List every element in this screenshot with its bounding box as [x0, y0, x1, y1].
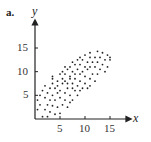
data-point: [107, 66, 109, 68]
data-point: [77, 85, 79, 87]
data-points: [37, 50, 111, 117]
data-point: [59, 97, 61, 99]
data-point: [57, 80, 59, 82]
data-point: [84, 54, 86, 56]
data-point: [74, 73, 76, 75]
data-point: [69, 94, 71, 96]
data-point: [79, 64, 81, 66]
data-point: [82, 71, 84, 73]
data-point: [57, 106, 59, 108]
data-point: [64, 80, 66, 82]
data-point: [89, 66, 91, 68]
data-point: [102, 64, 104, 66]
data-point: [89, 57, 91, 59]
data-point: [89, 52, 91, 54]
data-point: [54, 113, 56, 115]
y-tick-label: 15: [17, 41, 28, 53]
data-point: [67, 68, 69, 70]
data-point: [74, 90, 76, 92]
data-point: [49, 99, 51, 101]
data-point: [62, 78, 64, 80]
data-point: [97, 61, 99, 63]
data-point: [47, 92, 49, 94]
data-point: [97, 73, 99, 75]
data-point: [87, 87, 89, 89]
data-point: [47, 116, 49, 118]
data-point: [74, 78, 76, 80]
data-point: [42, 116, 44, 118]
data-point: [62, 83, 64, 85]
data-point: [69, 66, 71, 68]
data-point: [104, 59, 106, 61]
data-point: [64, 99, 66, 101]
data-point: [44, 97, 46, 99]
data-point: [52, 78, 54, 80]
data-point: [79, 90, 81, 92]
data-point: [72, 99, 74, 101]
data-point: [109, 57, 111, 59]
data-point: [97, 50, 99, 52]
data-point: [64, 66, 66, 68]
data-point: [52, 94, 54, 96]
data-point: [67, 87, 69, 89]
data-point: [37, 99, 39, 101]
data-point: [84, 83, 86, 85]
data-point: [39, 94, 41, 96]
y-axis-label: y: [32, 4, 37, 19]
data-point: [69, 76, 71, 78]
data-point: [89, 85, 91, 87]
data-point: [87, 68, 89, 70]
data-point: [52, 76, 54, 78]
data-point: [57, 85, 59, 87]
data-point: [92, 73, 94, 75]
data-point: [82, 87, 84, 89]
data-point: [77, 59, 79, 61]
data-point: [77, 94, 79, 96]
data-point: [57, 92, 59, 94]
data-point: [69, 78, 71, 80]
data-point: [59, 112, 61, 114]
data-point: [54, 99, 56, 101]
x-tick-label: 15: [104, 122, 115, 134]
data-point: [94, 66, 96, 68]
data-point: [102, 52, 104, 54]
data-point: [72, 71, 74, 73]
y-tick-label: 5: [23, 88, 29, 100]
data-point: [94, 80, 96, 82]
data-point: [92, 61, 94, 63]
data-point: [74, 64, 76, 66]
data-point: [59, 73, 61, 75]
data-point: [62, 71, 64, 73]
x-tick-label: 5: [57, 122, 63, 134]
data-point: [49, 87, 51, 89]
data-point: [42, 90, 44, 92]
data-point: [77, 68, 79, 70]
data-point: [109, 59, 111, 61]
data-point: [37, 109, 39, 111]
data-point: [104, 71, 106, 73]
data-point: [79, 80, 81, 82]
data-point: [64, 73, 66, 75]
data-point: [79, 73, 81, 75]
data-point: [99, 68, 101, 70]
data-point: [47, 104, 49, 106]
data-point: [72, 83, 74, 85]
data-point: [44, 109, 46, 111]
data-point: [59, 90, 61, 92]
data-point: [72, 61, 74, 63]
data-point: [39, 104, 41, 106]
x-axis-label: x: [133, 111, 138, 126]
data-point: [64, 92, 66, 94]
data-point: [44, 85, 46, 87]
data-point: [52, 105, 54, 107]
data-point: [82, 59, 84, 61]
data-point: [87, 61, 89, 63]
data-point: [67, 106, 69, 108]
data-point: [84, 76, 86, 78]
data-point: [72, 87, 74, 89]
y-tick-label: 10: [17, 65, 28, 77]
data-point: [62, 104, 64, 106]
data-point: [94, 57, 96, 59]
data-point: [99, 57, 101, 59]
data-point: [79, 57, 81, 59]
